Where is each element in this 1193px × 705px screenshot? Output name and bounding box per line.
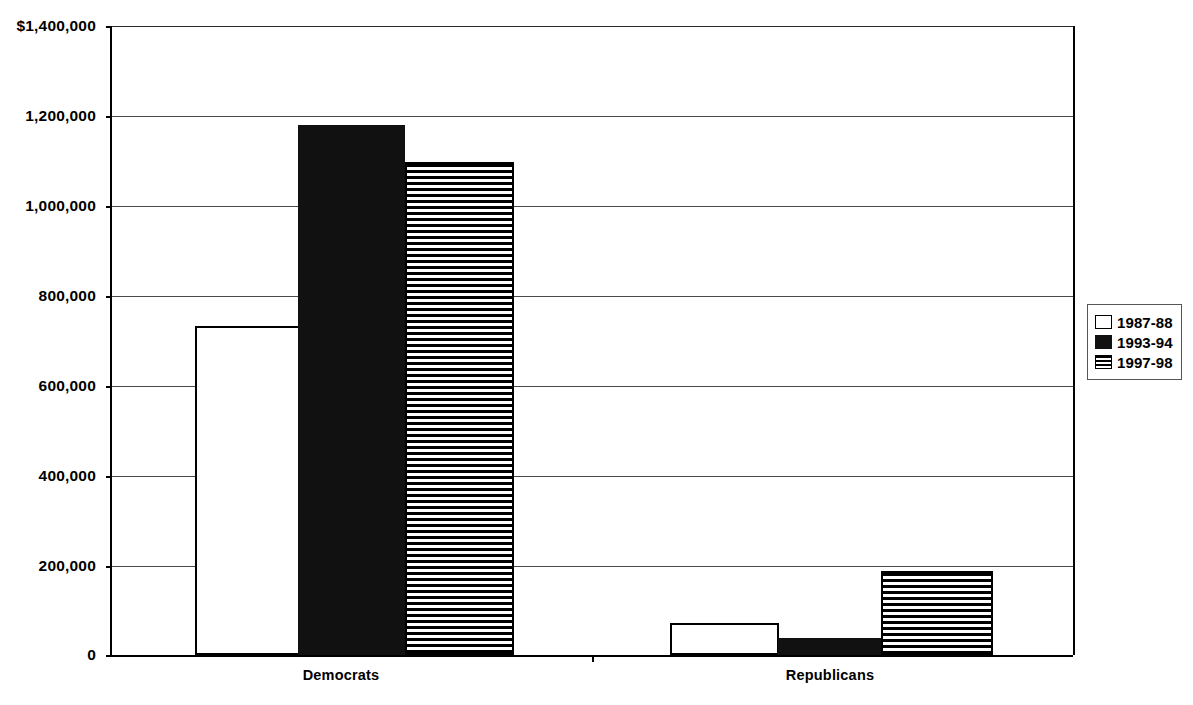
x-axis-label-democrats: Democrats bbox=[303, 668, 380, 683]
y-tick-mark bbox=[106, 386, 112, 388]
legend-label: 1997-98 bbox=[1117, 355, 1173, 370]
y-axis-tick-label: $1,400,000 bbox=[0, 18, 96, 34]
legend-swatch-hstripe-icon bbox=[1095, 355, 1112, 369]
y-axis-tick-label: 1,200,000 bbox=[0, 108, 96, 124]
plot-area bbox=[110, 26, 1075, 655]
y-axis-tick-label: 1,000,000 bbox=[0, 198, 96, 214]
y-tick-mark bbox=[106, 476, 112, 478]
y-tick-mark bbox=[106, 655, 112, 657]
y-axis: $1,400,000 1,200,000 1,000,000 800,000 6… bbox=[0, 0, 96, 705]
y-tick-mark bbox=[106, 206, 112, 208]
legend-label: 1993-94 bbox=[1117, 335, 1173, 350]
y-axis-tick-label: 400,000 bbox=[0, 468, 96, 484]
gridline-1200000 bbox=[112, 116, 1073, 117]
x-axis-tick-mark bbox=[592, 655, 594, 662]
legend-item-1997-98[interactable]: 1997-98 bbox=[1095, 352, 1173, 372]
gridline-1000000 bbox=[112, 206, 1073, 207]
legend-item-1993-94[interactable]: 1993-94 bbox=[1095, 332, 1173, 352]
x-axis-label-republicans: Republicans bbox=[786, 668, 874, 683]
legend: 1987-88 1993-94 1997-98 bbox=[1087, 304, 1182, 380]
bar-republicans-1993-94[interactable] bbox=[778, 638, 881, 655]
gridline-1400000 bbox=[112, 26, 1073, 27]
legend-swatch-solid-icon bbox=[1095, 335, 1112, 349]
y-axis-tick-label: 200,000 bbox=[0, 558, 96, 574]
bar-democrats-1987-88[interactable] bbox=[195, 326, 300, 655]
y-tick-mark bbox=[106, 116, 112, 118]
bar-chart: $1,400,000 1,200,000 1,000,000 800,000 6… bbox=[0, 0, 1193, 705]
y-axis-tick-label: 0 bbox=[0, 647, 96, 663]
gridline-800000 bbox=[112, 296, 1073, 297]
legend-item-1987-88[interactable]: 1987-88 bbox=[1095, 312, 1173, 332]
bar-republicans-1997-98[interactable] bbox=[881, 571, 993, 655]
y-tick-mark bbox=[106, 566, 112, 568]
bar-democrats-1997-98[interactable] bbox=[405, 162, 514, 655]
legend-swatch-open-icon bbox=[1095, 315, 1112, 329]
y-tick-mark bbox=[106, 296, 112, 298]
y-axis-tick-label: 600,000 bbox=[0, 378, 96, 394]
y-axis-tick-label: 800,000 bbox=[0, 288, 96, 304]
legend-label: 1987-88 bbox=[1117, 315, 1173, 330]
y-tick-mark bbox=[106, 26, 112, 28]
bar-republicans-1987-88[interactable] bbox=[670, 623, 779, 655]
bar-democrats-1993-94[interactable] bbox=[298, 125, 405, 655]
